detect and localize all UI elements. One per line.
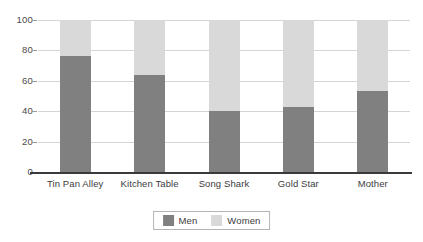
- y-axis: 020406080100: [0, 0, 33, 242]
- x-axis-tick-label: Mother: [336, 177, 410, 191]
- bar-segment-women[interactable]: [283, 20, 314, 107]
- y-axis-tick-label: 100: [5, 15, 33, 25]
- y-axis-tick-label: 80: [5, 45, 33, 55]
- bar-group[interactable]: [209, 20, 240, 172]
- bar-group[interactable]: [357, 20, 388, 172]
- bar-group[interactable]: [134, 20, 165, 172]
- legend-label: Women: [227, 215, 260, 226]
- x-axis-tick-label: Kitchen Table: [112, 177, 186, 191]
- y-axis-tick-label: 60: [5, 76, 33, 86]
- y-axis-tick-mark: [32, 111, 37, 112]
- bar-group[interactable]: [60, 20, 91, 172]
- bar-segment-men[interactable]: [357, 91, 388, 172]
- bar-segment-women[interactable]: [134, 20, 165, 75]
- bar-group[interactable]: [283, 20, 314, 172]
- bar-segment-women[interactable]: [209, 20, 240, 111]
- x-axis-line: [30, 172, 412, 174]
- bar-segment-men[interactable]: [60, 56, 91, 172]
- y-axis-tick-mark: [32, 20, 37, 21]
- y-axis-tick-label: 0: [5, 167, 33, 177]
- bar-segment-men[interactable]: [209, 111, 240, 172]
- y-axis-tick-mark: [32, 81, 37, 82]
- x-axis-tick-label: Gold Star: [261, 177, 335, 191]
- y-axis-tick-label: 40: [5, 106, 33, 116]
- plot-area: [38, 20, 410, 172]
- legend-swatch-men: [163, 215, 174, 226]
- y-axis-tick-mark: [32, 50, 37, 51]
- bar-segment-women[interactable]: [357, 20, 388, 91]
- x-axis-tick-label: Tin Pan Alley: [38, 177, 112, 191]
- legend-label: Men: [179, 215, 198, 226]
- y-axis-tick-label: 20: [5, 137, 33, 147]
- x-axis-tick-label: Song Shark: [187, 177, 261, 191]
- x-axis: Tin Pan AlleyKitchen TableSong SharkGold…: [38, 177, 410, 193]
- y-axis-tick-mark: [32, 142, 37, 143]
- legend-entry-men[interactable]: Men: [163, 215, 198, 226]
- stacked-bar-chart: 020406080100 Tin Pan AlleyKitchen TableS…: [0, 0, 423, 242]
- chart-legend: MenWomen: [153, 211, 271, 230]
- legend-entry-women[interactable]: Women: [211, 215, 260, 226]
- bar-segment-women[interactable]: [60, 20, 91, 56]
- bar-segment-men[interactable]: [283, 107, 314, 172]
- bar-segment-men[interactable]: [134, 75, 165, 172]
- legend-swatch-women: [211, 215, 222, 226]
